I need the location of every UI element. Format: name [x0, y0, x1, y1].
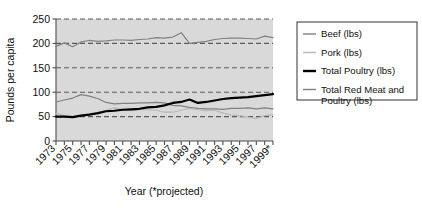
plot-area-background [56, 19, 273, 141]
line-chart: 050100150200250 197319751977197919811983… [0, 0, 422, 209]
y-tick-label: 50 [38, 110, 50, 122]
y-tick-label: 100 [32, 86, 50, 98]
x-axis-tick-labels: 1973197519771979198119831985198719891991… [32, 142, 274, 170]
y-tick-label: 200 [32, 37, 50, 49]
legend-label[interactable]: Total Red Meat and [321, 84, 404, 95]
chart-container: 050100150200250 197319751977197919811983… [0, 0, 422, 209]
y-axis-title: Pounds per capita [4, 38, 16, 123]
x-axis-title: Year (*projected) [125, 185, 203, 197]
y-tick-label: 150 [32, 62, 50, 74]
y-axis-ticks: 050100150200250 [32, 13, 56, 147]
y-tick-label: 250 [32, 13, 50, 25]
legend-label[interactable]: Total Poultry (lbs) [321, 65, 395, 76]
legend-label-line2[interactable]: Poultry (lbs) [321, 95, 372, 106]
legend-label[interactable]: Beef (lbs) [321, 28, 362, 39]
legend-label[interactable]: Pork (lbs) [321, 47, 362, 58]
